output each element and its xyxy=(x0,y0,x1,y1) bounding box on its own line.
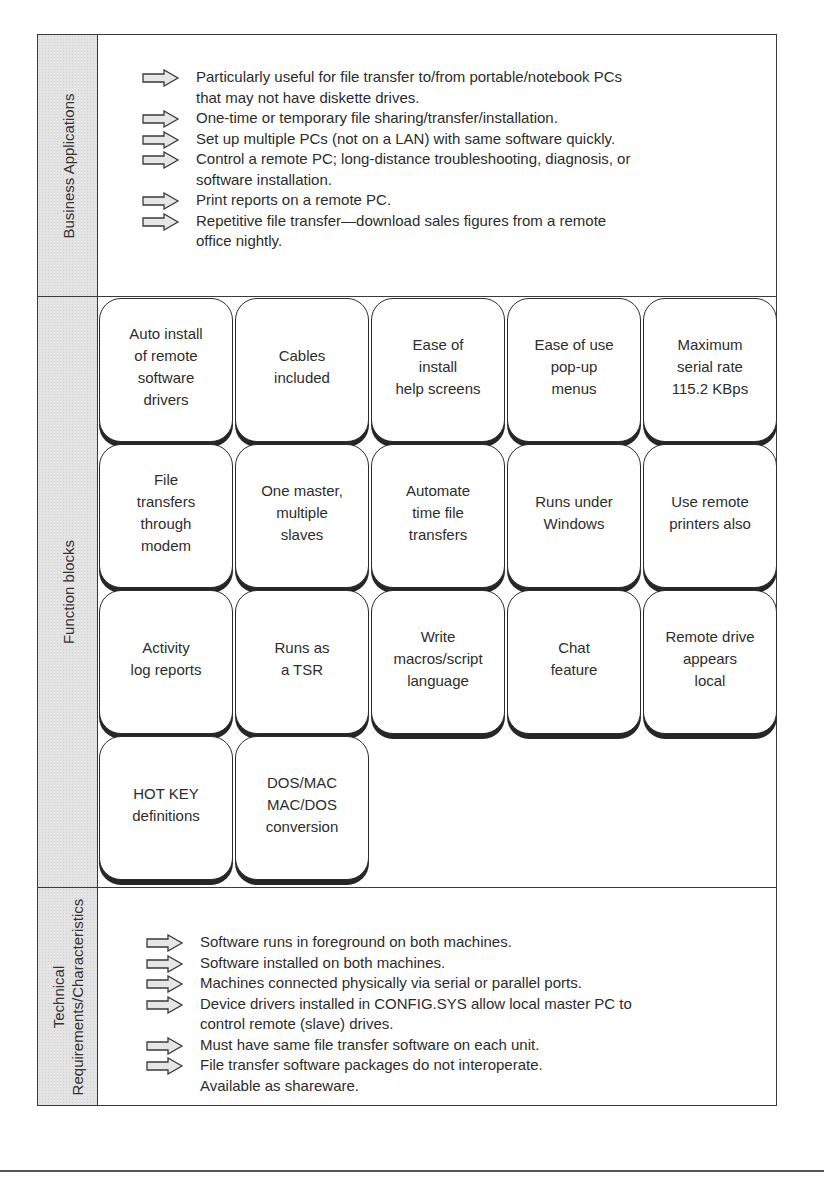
list-item: Print reports on a remote PC. xyxy=(142,190,630,211)
list-item: Device drivers installed in CONFIG.SYS a… xyxy=(146,994,632,1035)
function-block-cell: Ease of use pop-up menus xyxy=(506,297,642,443)
function-diagram: Business Applications Particularly usefu… xyxy=(37,34,777,1106)
business-applications-content: Particularly useful for file transfer to… xyxy=(98,35,776,296)
technical-requirements-section: Technical Requirements/Characteristics S… xyxy=(38,887,776,1105)
function-block: Automate time file transfers xyxy=(371,444,505,588)
function-blocks-section: Function blocks Auto install of remote s… xyxy=(38,296,776,887)
business-applications-label: Business Applications xyxy=(58,93,77,238)
function-block: Write macros/script language xyxy=(371,590,505,734)
list-item-text: Must have same file transfer software on… xyxy=(200,1036,539,1053)
function-block: File transfers through modem xyxy=(99,444,233,588)
right-arrow-icon xyxy=(146,975,184,993)
function-blocks-content: Auto install of remote software driversC… xyxy=(98,297,776,887)
list-item: Must have same file transfer software on… xyxy=(146,1035,632,1056)
technical-requirements-label: Technical Requirements/Characteristics xyxy=(49,898,87,1095)
technical-requirements-content: Software runs in foreground on both mach… xyxy=(98,888,776,1105)
technical-label-line2: Requirements/Characteristics xyxy=(68,898,87,1095)
list-item: One-time or temporary file sharing/trans… xyxy=(142,108,630,129)
list-item: Repetitive file transfer—download sales … xyxy=(142,211,630,252)
caption-divider xyxy=(0,1170,824,1172)
function-block-cell: Chat feature xyxy=(506,589,642,735)
list-item-text: Machines connected physically via serial… xyxy=(200,974,582,991)
list-item-text: File transfer software packages do not i… xyxy=(200,1056,543,1073)
function-blocks-label-panel: Function blocks xyxy=(38,297,98,887)
list-item-text: Software installed on both machines. xyxy=(200,954,445,971)
list-item-text: Available as shareware. xyxy=(200,1077,359,1094)
function-block-cell: Runs as a TSR xyxy=(234,589,370,735)
right-arrow-icon xyxy=(142,192,180,210)
function-block-cell: Ease of install help screens xyxy=(370,297,506,443)
list-item-text: Set up multiple PCs (not on a LAN) with … xyxy=(196,130,615,147)
function-block-cell: Maximum serial rate 115.2 KBps xyxy=(642,297,778,443)
list-item-text: Control a remote PC; long-distance troub… xyxy=(196,150,630,188)
list-item: Machines connected physically via serial… xyxy=(146,973,632,994)
right-arrow-icon xyxy=(146,934,184,952)
function-block: Ease of install help screens xyxy=(371,298,505,442)
list-item: Available as shareware. xyxy=(146,1076,632,1097)
function-block: Runs under Windows xyxy=(507,444,641,588)
function-block-cell: Remote drive appears local xyxy=(642,589,778,735)
right-arrow-icon xyxy=(142,213,180,231)
right-arrow-icon xyxy=(142,110,180,128)
function-block-cell: HOT KEY definitions xyxy=(98,735,234,881)
list-item: Control a remote PC; long-distance troub… xyxy=(142,149,630,190)
function-block: Cables included xyxy=(235,298,369,442)
list-item-text: Device drivers installed in CONFIG.SYS a… xyxy=(200,995,632,1033)
business-applications-list: Particularly useful for file transfer to… xyxy=(142,67,630,252)
list-item: Set up multiple PCs (not on a LAN) with … xyxy=(142,129,630,150)
list-item-text: Print reports on a remote PC. xyxy=(196,191,391,208)
business-applications-label-panel: Business Applications xyxy=(38,35,98,296)
function-block: Chat feature xyxy=(507,590,641,734)
right-arrow-icon xyxy=(146,996,184,1014)
list-item: Software installed on both machines. xyxy=(146,953,632,974)
function-block: Runs as a TSR xyxy=(235,590,369,734)
function-block-cell: Runs under Windows xyxy=(506,443,642,589)
right-arrow-icon xyxy=(142,151,180,169)
function-block-cell: Cables included xyxy=(234,297,370,443)
function-block: Maximum serial rate 115.2 KBps xyxy=(643,298,777,442)
function-block: Activity log reports xyxy=(99,590,233,734)
function-blocks-label: Function blocks xyxy=(58,540,77,644)
list-item: Software runs in foreground on both mach… xyxy=(146,932,632,953)
function-block-cell: DOS/MAC MAC/DOS conversion xyxy=(234,735,370,881)
right-arrow-icon xyxy=(146,1037,184,1055)
list-item-text: Software runs in foreground on both mach… xyxy=(200,933,512,950)
function-block: HOT KEY definitions xyxy=(99,736,233,880)
list-item-text: One-time or temporary file sharing/trans… xyxy=(196,109,558,126)
technical-requirements-list: Software runs in foreground on both mach… xyxy=(146,932,632,1096)
function-block-cell: File transfers through modem xyxy=(98,443,234,589)
list-item-text: Particularly useful for file transfer to… xyxy=(196,68,622,106)
list-item: Particularly useful for file transfer to… xyxy=(142,67,630,108)
function-block-cell: Activity log reports xyxy=(98,589,234,735)
technical-requirements-label-panel: Technical Requirements/Characteristics xyxy=(38,888,98,1105)
technical-label-line1: Technical xyxy=(49,898,68,1095)
function-block: Ease of use pop-up menus xyxy=(507,298,641,442)
right-arrow-icon xyxy=(146,1057,184,1075)
function-block-cell: Auto install of remote software drivers xyxy=(98,297,234,443)
right-arrow-icon xyxy=(142,131,180,149)
function-block: One master, multiple slaves xyxy=(235,444,369,588)
function-block-cell: One master, multiple slaves xyxy=(234,443,370,589)
function-block: Auto install of remote software drivers xyxy=(99,298,233,442)
function-block: DOS/MAC MAC/DOS conversion xyxy=(235,736,369,880)
list-item: File transfer software packages do not i… xyxy=(146,1055,632,1076)
function-block: Remote drive appears local xyxy=(643,590,777,734)
business-applications-section: Business Applications Particularly usefu… xyxy=(38,35,776,296)
right-arrow-icon xyxy=(142,69,180,87)
right-arrow-icon xyxy=(146,955,184,973)
function-block-cell: Write macros/script language xyxy=(370,589,506,735)
function-block: Use remote printers also xyxy=(643,444,777,588)
function-block-cell: Automate time file transfers xyxy=(370,443,506,589)
function-block-cell: Use remote printers also xyxy=(642,443,778,589)
list-item-text: Repetitive file transfer—download sales … xyxy=(196,212,606,250)
